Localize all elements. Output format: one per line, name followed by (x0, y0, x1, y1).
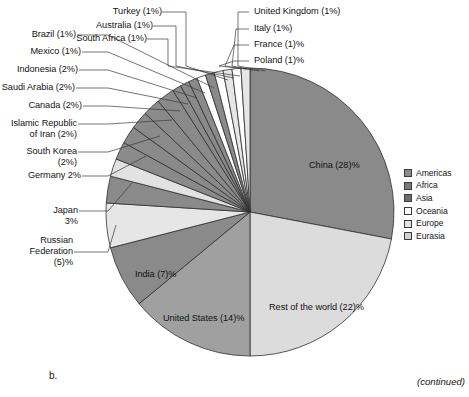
pie-chart-figure: Brazil (1%) Mexico (1%) Indonesia (2%) S… (0, 0, 469, 397)
callout-turkey: Turkey (1%) (62, 6, 162, 17)
legend-item-label: Oceania (416, 207, 448, 216)
leader-australia (153, 26, 234, 78)
legend-item: Oceania (404, 205, 468, 218)
legend-item-label: Africa (416, 181, 438, 190)
legend-item-label: Europe (416, 219, 443, 228)
legend-item-label: Americas (416, 169, 451, 178)
legend-item: Africa (404, 180, 468, 193)
pie-chart-graphic (0, 0, 469, 397)
legend: AmericasAfricaAsiaOceaniaEuropeEurasia (404, 167, 468, 243)
panel-letter: b. (49, 370, 57, 381)
callout-japan: Japan 3% (0, 205, 78, 227)
legend-item: Asia (404, 192, 468, 205)
pie-slice (250, 68, 394, 239)
continued-note: (continued) (417, 376, 465, 387)
slice-label-india: India (7)% (135, 269, 176, 280)
callout-indonesia: Indonesia (2%) (0, 64, 78, 75)
callout-iran: Islamic Republic of Iran (2%) (0, 118, 77, 140)
legend-swatch-icon (404, 220, 412, 228)
callout-france: France (1)% (254, 39, 344, 50)
legend-swatch-icon (404, 232, 412, 240)
legend-swatch-icon (404, 182, 412, 190)
legend-item-label: Asia (416, 194, 433, 203)
legend-swatch-icon (404, 169, 412, 177)
legend-swatch-icon (404, 207, 412, 215)
legend-item-label: Eurasia (416, 232, 445, 241)
legend-swatch-icon (404, 194, 412, 202)
slice-label-rest-of-world: Rest of the world (22)% (269, 302, 364, 313)
callout-mexico: Mexico (1%) (0, 46, 81, 57)
callout-canada: Canada (2%) (0, 100, 82, 111)
callout-saudi-arabia: Saudi Arabia (2%) (0, 82, 75, 93)
legend-item: Europe (404, 217, 468, 230)
callout-australia: Australia (1%) (40, 20, 153, 31)
legend-item: Eurasia (404, 230, 468, 243)
callout-germany: Germany 2% (0, 170, 81, 181)
callout-united-kingdom: United Kingdom (1%) (254, 6, 384, 17)
callout-south-korea: South Korea (2%) (0, 146, 77, 168)
callout-italy: Italy (1%) (254, 23, 344, 34)
slice-label-china: China (28)% (309, 160, 360, 171)
slice-label-united-states: United States (14)% (163, 313, 244, 324)
callout-russian-federation: Russian Federation (5)% (0, 235, 73, 269)
callout-south-africa: South Africa (1%) (30, 33, 147, 44)
legend-item: Americas (404, 167, 468, 180)
callout-poland: Poland (1)% (254, 55, 344, 66)
